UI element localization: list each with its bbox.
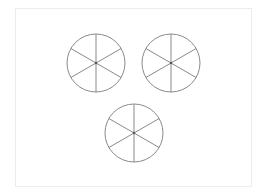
fraction-circles-diagram [0,0,270,196]
radius-line [109,119,134,134]
circle-divided-2 [142,34,200,92]
radius-line [171,49,196,64]
circle-divided-3 [105,104,163,162]
radius-line [146,63,171,78]
radius-line [96,49,121,64]
circle-divided-1 [67,34,125,92]
radius-line [109,133,134,148]
radius-line [134,133,159,148]
center-dot [133,132,135,134]
radius-line [171,63,196,78]
radius-line [96,63,121,78]
radius-line [146,49,171,64]
center-dot [170,62,172,64]
radius-line [71,63,96,78]
center-dot [95,62,97,64]
radius-line [71,49,96,64]
radius-line [134,119,159,134]
